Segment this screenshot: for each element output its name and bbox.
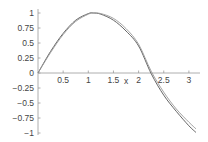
y-tick-label: 0.5 (22, 38, 34, 48)
y-tick-label: −0.5 (17, 98, 34, 108)
x-axis-label: x (124, 76, 129, 86)
x-tick-label: 2.5 (158, 75, 170, 85)
y-tick-label: 0.25 (17, 53, 34, 63)
y-tick-label: 0 (29, 68, 34, 78)
series-line-2 (38, 13, 196, 129)
x-tick-label: 1.5 (108, 75, 120, 85)
line-chart: 0.511.522.5310.750.50.250−0.25−0.5−0.75−… (0, 0, 208, 142)
y-tick-label: −1 (24, 128, 34, 138)
x-tick-label: 2 (136, 75, 141, 85)
axes (38, 9, 200, 135)
y-tick-label: 1 (29, 8, 34, 18)
y-tick-label: −0.25 (12, 83, 34, 93)
y-tick-label: −0.75 (12, 113, 34, 123)
y-tick-label: 0.75 (17, 23, 34, 33)
x-tick-label: 1 (86, 75, 91, 85)
x-tick-label: 3 (187, 75, 192, 85)
x-tick-label: 0.5 (57, 75, 69, 85)
